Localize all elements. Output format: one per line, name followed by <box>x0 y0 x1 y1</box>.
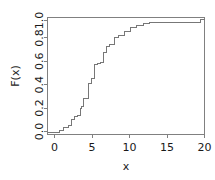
y-tick-label-1: 0.2 <box>33 99 46 117</box>
y-tick-label-2: 0.4 <box>33 76 46 94</box>
x-tick-label-3: 15 <box>160 141 174 154</box>
x-tick-label-0: 0 <box>51 141 58 154</box>
x-tick-label-1: 5 <box>89 141 96 154</box>
plot-canvas: 0.0 0.2 0.4 0.6 0.8 1.0 0 5 10 15 20 x F… <box>0 0 215 180</box>
y-tick-label-3: 0.6 <box>33 53 46 71</box>
y-tick-label-4: 0.8 <box>33 29 46 47</box>
y-axis-title: F(x) <box>9 65 22 86</box>
x-axis-title: x <box>123 160 130 173</box>
x-tick-label-4: 20 <box>198 141 212 154</box>
ecdf-chart-figure: 0.0 0.2 0.4 0.6 0.8 1.0 0 5 10 15 20 x F… <box>0 0 215 180</box>
y-tick-label-5: 1.0 <box>33 12 46 30</box>
y-tick-label-0: 0.0 <box>33 123 46 141</box>
x-tick-label-2: 10 <box>123 141 137 154</box>
